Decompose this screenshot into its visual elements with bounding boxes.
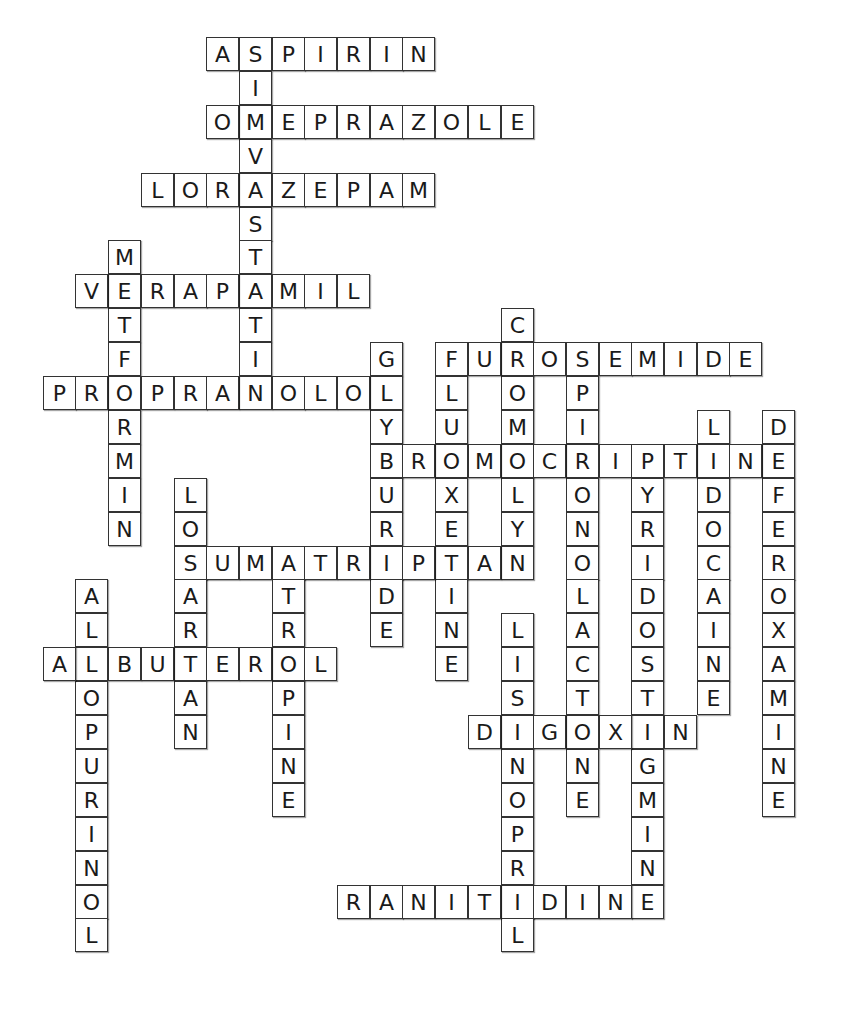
crossword-cell: N — [435, 613, 468, 647]
crossword-cell: U — [468, 342, 501, 376]
crossword-board: ASPIRINIMVASTATINOEPRAZOLELORZEPAMMETFOR… — [0, 0, 841, 1012]
crossword-cell: M — [272, 274, 305, 308]
crossword-cell: L — [697, 410, 730, 444]
crossword-cell: I — [501, 647, 534, 681]
crossword-cell: V — [75, 274, 108, 308]
crossword-cell: P — [631, 444, 664, 478]
crossword-cell: P — [272, 37, 305, 71]
crossword-cell: E — [272, 105, 305, 139]
crossword-cell: R — [75, 376, 108, 410]
crossword-cell: A — [468, 546, 501, 580]
crossword-cell: M — [631, 783, 664, 817]
crossword-cell: U — [75, 749, 108, 783]
crossword-cell: F — [762, 478, 795, 512]
crossword-cell: N — [239, 376, 272, 410]
crossword-cell: N — [75, 851, 108, 885]
crossword-cell: I — [304, 274, 337, 308]
crossword-cell: D — [468, 715, 501, 749]
crossword-cell: T — [239, 240, 272, 274]
crossword-cell: L — [75, 647, 108, 681]
crossword-cell: P — [272, 681, 305, 715]
crossword-cell: P — [337, 173, 370, 207]
crossword-cell: O — [631, 613, 664, 647]
crossword-cell: T — [664, 444, 697, 478]
crossword-cell: R — [337, 105, 370, 139]
crossword-cell: S — [566, 342, 599, 376]
crossword-cell: O — [174, 173, 207, 207]
crossword-cell: A — [174, 274, 207, 308]
crossword-cell: N — [566, 749, 599, 783]
crossword-cell: L — [75, 613, 108, 647]
crossword-cell: O — [762, 579, 795, 613]
crossword-cell: I — [501, 885, 534, 919]
crossword-cell: L — [501, 918, 534, 952]
crossword-cell: M — [239, 105, 272, 139]
crossword-cell: N — [501, 749, 534, 783]
crossword-cell: L — [566, 579, 599, 613]
crossword-cell: A — [43, 647, 76, 681]
crossword-cell: O — [697, 512, 730, 546]
crossword-cell: M — [631, 342, 664, 376]
crossword-cell: I — [762, 715, 795, 749]
crossword-cell: M — [108, 444, 141, 478]
crossword-cell: E — [435, 647, 468, 681]
crossword-cell: T — [108, 308, 141, 342]
crossword-cell: S — [631, 647, 664, 681]
crossword-cell: S — [501, 681, 534, 715]
crossword-cell: E — [762, 783, 795, 817]
crossword-cell: R — [337, 885, 370, 919]
crossword-cell: T — [435, 546, 468, 580]
crossword-cell: R — [566, 444, 599, 478]
crossword-cell: T — [239, 308, 272, 342]
crossword-cell: L — [304, 647, 337, 681]
crossword-cell: A — [174, 579, 207, 613]
crossword-cell: N — [762, 749, 795, 783]
crossword-cell: X — [435, 478, 468, 512]
crossword-cell: A — [174, 681, 207, 715]
crossword-cell: I — [304, 37, 337, 71]
crossword-cell: R — [370, 512, 403, 546]
crossword-cell: I — [75, 817, 108, 851]
crossword-cell: R — [141, 274, 174, 308]
crossword-cell: M — [762, 681, 795, 715]
crossword-cell: I — [566, 885, 599, 919]
crossword-cell: A — [206, 376, 239, 410]
crossword-cell: Y — [370, 410, 403, 444]
crossword-cell: A — [566, 613, 599, 647]
crossword-cell: L — [501, 478, 534, 512]
crossword-cell: I — [435, 579, 468, 613]
crossword-cell: P — [141, 376, 174, 410]
crossword-cell: C — [566, 647, 599, 681]
crossword-cell: A — [206, 37, 239, 71]
crossword-cell: S — [174, 546, 207, 580]
crossword-cell: Y — [501, 512, 534, 546]
crossword-cell: E — [272, 783, 305, 817]
crossword-cell: X — [762, 613, 795, 647]
crossword-cell: I — [435, 885, 468, 919]
crossword-cell: O — [566, 546, 599, 580]
crossword-cell: P — [206, 274, 239, 308]
crossword-cell: Z — [402, 105, 435, 139]
crossword-cell: E — [697, 681, 730, 715]
crossword-cell: Y — [631, 478, 664, 512]
crossword-cell: N — [272, 749, 305, 783]
crossword-cell: G — [533, 715, 566, 749]
crossword-cell: T — [566, 681, 599, 715]
crossword-cell: A — [239, 173, 272, 207]
crossword-cell: E — [729, 342, 762, 376]
crossword-cell: L — [435, 376, 468, 410]
crossword-cell: I — [631, 715, 664, 749]
crossword-cell: A — [272, 546, 305, 580]
crossword-cell: O — [501, 783, 534, 817]
crossword-cell: I — [697, 444, 730, 478]
crossword-cell: E — [599, 342, 632, 376]
crossword-cell: O — [533, 342, 566, 376]
crossword-cell: I — [239, 342, 272, 376]
crossword-cell: O — [435, 105, 468, 139]
crossword-cell: E — [762, 444, 795, 478]
crossword-cell: G — [631, 749, 664, 783]
crossword-cell: L — [501, 613, 534, 647]
crossword-cell: D — [762, 410, 795, 444]
crossword-cell: F — [108, 342, 141, 376]
crossword-cell: C — [501, 308, 534, 342]
